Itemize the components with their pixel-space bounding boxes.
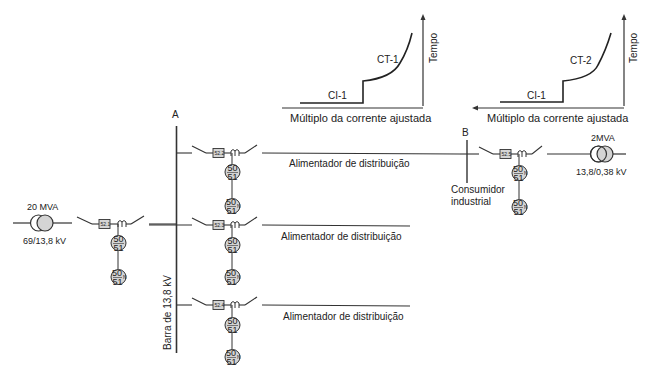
x-axis-arrow-icon	[472, 106, 478, 111]
transformer-voltage: 69/13,8 kV	[23, 236, 66, 246]
feeder-line	[262, 153, 460, 154]
relay-code-bottom: 51	[227, 172, 237, 182]
relay-code-neutral: N	[237, 274, 241, 280]
relay-code-neutral: N	[237, 203, 241, 209]
breaker-label: 52.4	[215, 302, 225, 308]
disconnect-switch-icon	[77, 217, 92, 224]
relay-code-bottom: 51	[226, 277, 236, 287]
y-axis-arrow-icon	[622, 14, 627, 20]
feeder-bay-3: 52.4 Alimentador de distribuição 50 51 5…	[177, 297, 410, 367]
disconnect-switch-icon	[532, 146, 542, 154]
x-axis-label: Múltiplo da corrente ajustada	[290, 112, 432, 124]
time-current-curve-1: CI-1 CT-1 Múltiplo da corrente ajustada …	[282, 14, 439, 124]
breaker-label: 52.5	[502, 151, 512, 157]
disconnect-switch-icon	[192, 146, 206, 153]
feeder-line	[262, 305, 410, 306]
bus-node-label: A	[172, 109, 179, 120]
y-axis-label: Tempo	[628, 33, 639, 63]
time-label: CT-1	[377, 54, 399, 65]
relay-code-bottom: 51	[113, 243, 123, 253]
breaker-label: 52.2	[215, 150, 225, 156]
relay-code-neutral: N	[123, 274, 127, 280]
relay-code-bottom: 51	[227, 325, 237, 335]
feeder-label: Alimentador de distribuição	[283, 311, 404, 322]
bus-bar-13-8kv: A Barra de 13,8 kV	[162, 109, 179, 353]
breaker-label: 52.1	[101, 221, 111, 227]
consumer-node-label: B	[462, 127, 469, 138]
disconnect-switch-icon	[245, 145, 257, 153]
relay-code-bottom: 51	[226, 206, 236, 216]
relay-code-bottom: 51	[513, 207, 523, 217]
source-transformer: 20 MVA 69/13,8 kV	[13, 202, 72, 246]
current-transformer-icon	[118, 221, 126, 228]
disconnect-switch-icon	[192, 218, 206, 225]
relay-code-bottom: 51	[513, 173, 523, 183]
instant-label: CI-1	[328, 90, 347, 101]
feeder-line	[262, 225, 410, 226]
single-line-diagram: CI-1 CT-1 Múltiplo da corrente ajustada …	[0, 0, 649, 380]
instant-label: CI-1	[527, 90, 546, 101]
bus-name: Barra de 13,8 kV	[162, 275, 173, 350]
feeder-label: Alimentador de distribuição	[281, 231, 402, 242]
trip-curve	[500, 33, 611, 102]
y-axis-label: Tempo	[428, 33, 439, 63]
feeder-bay-1: 52.2 Alimentador de distribuição 50 51 5…	[177, 145, 460, 216]
relay-code-neutral: N	[237, 354, 241, 360]
relay-code-neutral: N	[524, 170, 528, 176]
consumer-bay: B Consumidor industrial 52.5 50 N 51 50 …	[451, 127, 627, 217]
trip-curve	[300, 33, 412, 103]
x-axis-label: Múltiplo da corrente ajustada	[487, 112, 629, 124]
breaker-label: 52.3	[215, 222, 225, 228]
transformer-rating: 20 MVA	[27, 202, 58, 212]
disconnect-switch-icon	[245, 297, 257, 305]
consumer-name-line2: industrial	[451, 196, 491, 207]
relay-code-bottom: 51	[112, 277, 122, 287]
disconnect-switch-icon	[479, 147, 493, 154]
consumer-transformer-rating: 2MVA	[591, 133, 615, 143]
relay-code-bottom: 51	[226, 357, 236, 367]
consumer-name-line1: Consumidor	[451, 184, 506, 195]
time-label: CT-2	[570, 55, 592, 66]
transformer-winding-secondary-icon	[37, 215, 53, 231]
consumer-transformer-voltage: 13,8/0,38 kV	[576, 167, 627, 177]
disconnect-switch-icon	[192, 298, 206, 305]
feeder-label: Alimentador de distribuição	[289, 158, 410, 169]
relay-code-neutral: N	[524, 204, 528, 210]
feeder-bay-2: 52.3 Alimentador de distribuição 50 51 5…	[149, 217, 410, 287]
relay-code-bottom: 51	[227, 245, 237, 255]
disconnect-switch-icon	[245, 217, 257, 225]
y-axis-arrow-icon	[421, 14, 426, 20]
time-current-curve-2: CI-1 CT-2 Múltiplo da corrente ajustada …	[472, 14, 639, 124]
disconnect-switch-icon	[131, 216, 144, 224]
